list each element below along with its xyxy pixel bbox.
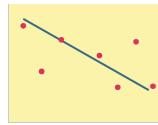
- data-point: [20, 23, 26, 29]
- plot-area: [8, 4, 158, 122]
- data-point: [97, 53, 103, 59]
- scatter-chart: [0, 0, 158, 125]
- data-point: [59, 37, 65, 43]
- data-point: [150, 83, 156, 89]
- data-point: [115, 84, 121, 90]
- data-point: [39, 69, 45, 75]
- data-point: [133, 39, 139, 45]
